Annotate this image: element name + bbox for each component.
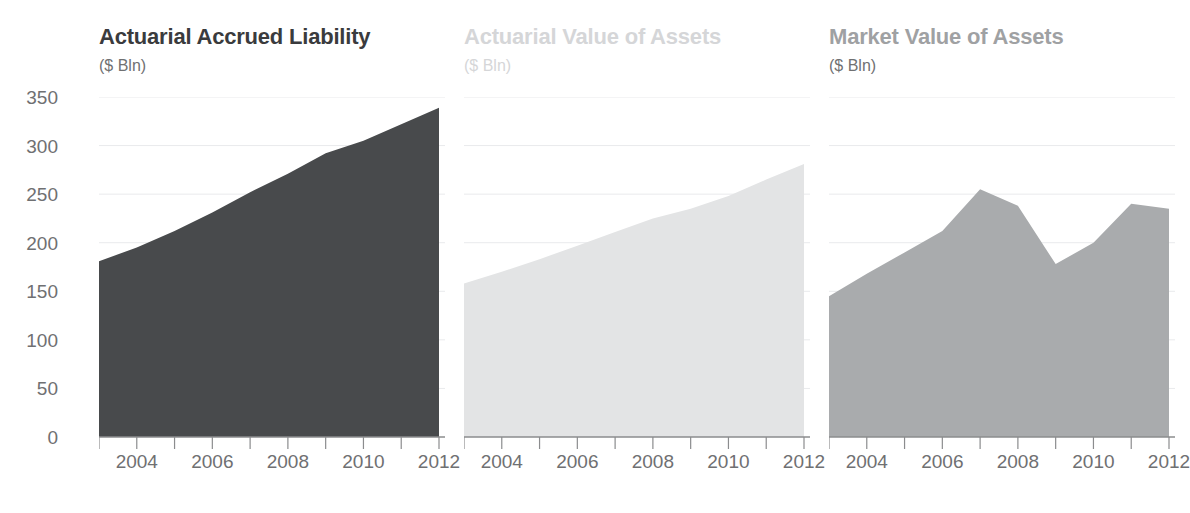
x-axis-tick-label: 2008: [632, 452, 674, 471]
x-axis-tick-label: 2006: [921, 452, 963, 471]
y-axis-tick-label: 50: [0, 379, 58, 398]
x-axis-tick-label: 2012: [783, 452, 825, 471]
x-axis-tick-label: 2008: [267, 452, 309, 471]
panel-subtitle: ($ Bln): [464, 58, 511, 74]
chart-svg: [99, 97, 447, 457]
area-series: [464, 164, 804, 437]
y-axis-tick-label: 0: [0, 428, 58, 447]
x-axis-tick-label: 2004: [846, 452, 888, 471]
x-axis-tick-label: 2006: [556, 452, 598, 471]
y-axis-tick-label: 350: [0, 88, 58, 107]
y-axis-tick-label: 100: [0, 330, 58, 349]
x-axis-tick-label: 2010: [342, 452, 384, 471]
plot-area: [464, 97, 804, 437]
x-axis-labels: 20042006200820102012: [829, 452, 1174, 482]
y-axis-tick-label: 300: [0, 136, 58, 155]
x-axis-tick-label: 2004: [481, 452, 523, 471]
chart-panel-market-value-of-assets: Market Value of Assets ($ Bln) 200420062…: [829, 0, 1174, 513]
plot-area: [99, 97, 439, 437]
panel-title: Actuarial Value of Assets: [464, 26, 721, 48]
chart-panel-actuarial-accrued-liability: Actuarial Accrued Liability ($ Bln) 2004…: [99, 0, 444, 513]
x-axis-tick-label: 2012: [1148, 452, 1190, 471]
x-axis-tick-label: 2006: [191, 452, 233, 471]
x-axis-tick-label: 2008: [997, 452, 1039, 471]
x-axis-labels: 20042006200820102012: [464, 452, 809, 482]
y-axis-tick-label: 150: [0, 282, 58, 301]
chart-svg: [464, 97, 812, 457]
chart-panel-actuarial-value-of-assets: Actuarial Value of Assets ($ Bln) 200420…: [464, 0, 809, 513]
area-series: [829, 189, 1169, 437]
x-axis-tick-label: 2012: [418, 452, 460, 471]
x-axis-tick-label: 2010: [707, 452, 749, 471]
x-axis-tick-label: 2004: [116, 452, 158, 471]
panel-title: Market Value of Assets: [829, 26, 1063, 48]
x-axis-tick-label: 2010: [1072, 452, 1114, 471]
y-axis-tick-label: 200: [0, 233, 58, 252]
panel-subtitle: ($ Bln): [99, 58, 146, 74]
area-series: [99, 108, 439, 437]
panel-title: Actuarial Accrued Liability: [99, 26, 370, 48]
x-axis-labels: 20042006200820102012: [99, 452, 444, 482]
y-axis-labels: 050100150200250300350: [0, 0, 58, 513]
plot-area: [829, 97, 1169, 437]
chart-svg: [829, 97, 1177, 457]
y-axis-tick-label: 250: [0, 185, 58, 204]
panel-subtitle: ($ Bln): [829, 58, 876, 74]
